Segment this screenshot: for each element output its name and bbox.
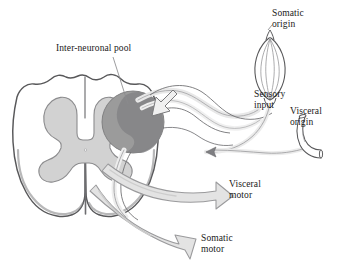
label-somatic-motor-line2: motor xyxy=(201,244,224,254)
label-somatic-motor-line1: Somatic xyxy=(201,233,233,243)
nerve-sheath-detail-c xyxy=(163,127,233,145)
inter-neuronal-pool xyxy=(102,91,164,153)
label-somatic-origin-line2: origin xyxy=(272,19,295,29)
label-visceral-motor-line1: Visceral xyxy=(229,179,261,189)
label-somatic-motor: Somaticmotor xyxy=(201,233,233,254)
label-sensory-input-line1: Sensory xyxy=(254,89,285,99)
anatomical-figure: Inter-neuronal pool Somaticorigin Sensor… xyxy=(0,0,340,277)
label-visceral-origin: Visceralorigin xyxy=(290,106,322,127)
label-sensory-input: Sensoryinput xyxy=(254,89,285,110)
label-somatic-origin-line1: Somatic xyxy=(272,8,304,18)
label-visceral-origin-line2: origin xyxy=(290,117,313,127)
label-sensory-input-line2: input xyxy=(254,100,274,110)
label-somatic-origin: Somaticorigin xyxy=(272,8,304,29)
visceral-tube-end xyxy=(319,150,322,158)
label-visceral-motor-line2: motor xyxy=(229,190,252,200)
diagram-canvas xyxy=(0,0,340,277)
central-canal xyxy=(84,149,86,151)
label-inter-neuronal-pool: Inter-neuronal pool xyxy=(56,43,131,54)
label-visceral-origin-line1: Visceral xyxy=(290,106,322,116)
label-visceral-motor: Visceralmotor xyxy=(229,179,261,200)
